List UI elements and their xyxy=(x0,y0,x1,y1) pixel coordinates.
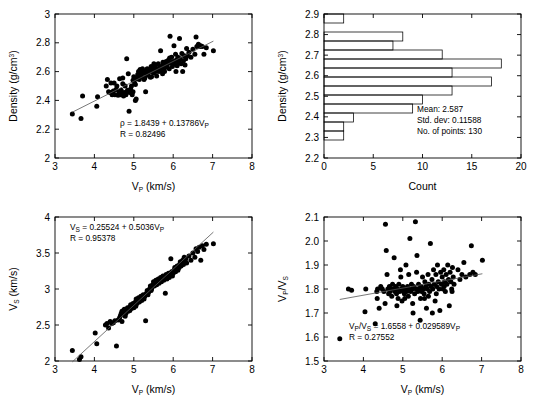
x-tick-label: 5 xyxy=(400,364,406,375)
data-point xyxy=(461,260,466,265)
regression-line xyxy=(340,274,483,300)
data-point xyxy=(407,236,412,241)
data-point xyxy=(433,272,438,277)
y-tick-label: 1.8 xyxy=(305,284,319,295)
data-point xyxy=(79,116,84,121)
y-tick-label: 2.7 xyxy=(305,50,319,61)
data-point xyxy=(383,301,388,306)
x-tick-label: 4 xyxy=(361,364,367,375)
x-tick-label: 7 xyxy=(210,161,216,172)
x-tick-label: 6 xyxy=(439,364,445,375)
data-point xyxy=(410,301,415,306)
data-point xyxy=(424,306,429,311)
data-point xyxy=(363,287,368,292)
y-tick-label: 2.5 xyxy=(305,91,319,102)
data-point xyxy=(127,109,132,114)
data-point xyxy=(337,336,342,341)
panel-vs-vs-vp: 34567822.533.54 VP (km/s) VS (km/s) VS =… xyxy=(0,203,269,406)
histogram-bar xyxy=(324,50,442,59)
histogram-bar xyxy=(324,86,452,95)
data-point xyxy=(426,272,431,277)
data-point xyxy=(204,45,209,50)
histogram-bar xyxy=(324,95,423,104)
data-point xyxy=(201,52,206,57)
y-tick-label: 2.1 xyxy=(305,212,319,223)
data-point xyxy=(180,69,185,74)
fit-equation-annotation: ρ = 1.8439 + 0.13786VP xyxy=(120,118,210,129)
data-point xyxy=(443,289,448,294)
x-tick-label: 10 xyxy=(417,161,429,172)
data-point xyxy=(420,275,425,280)
data-point xyxy=(422,291,427,296)
data-point xyxy=(428,241,433,246)
fit-line xyxy=(72,41,213,112)
data-point xyxy=(133,304,138,309)
data-point xyxy=(362,309,367,314)
x-tick-label: 4 xyxy=(92,161,98,172)
panel-density-histogram: 051015202.22.32.42.52.62.72.82.9 Count D… xyxy=(269,0,538,203)
x-tick-label: 4 xyxy=(92,364,98,375)
y-tick-label: 4 xyxy=(44,212,50,223)
data-point xyxy=(105,77,110,82)
data-point xyxy=(430,311,435,316)
data-point xyxy=(211,241,216,246)
histogram-bar xyxy=(324,113,354,122)
data-point xyxy=(442,284,447,289)
y-tick-label: 2.6 xyxy=(305,70,319,81)
data-point xyxy=(394,303,399,308)
data-point xyxy=(441,267,446,272)
x-tick-label: 7 xyxy=(210,364,216,375)
x-tick-label: 8 xyxy=(249,364,255,375)
panel-vpvs-vs-vp-svg: 3456781.51.61.71.81.92.02.1 VP (km/s) VP… xyxy=(269,203,538,406)
data-point xyxy=(383,222,388,227)
data-point xyxy=(70,112,75,117)
histogram-bar xyxy=(324,41,393,50)
x-axis-label: Count xyxy=(408,180,436,192)
data-point xyxy=(131,89,136,94)
data-point xyxy=(480,258,485,263)
y-tick-label: 2.0 xyxy=(305,236,319,247)
y-tick-label: 2 xyxy=(44,153,50,164)
histogram-bar xyxy=(324,77,491,86)
x-tick-label: 5 xyxy=(370,161,376,172)
data-point xyxy=(154,73,159,78)
data-point xyxy=(403,263,408,268)
y-axis-label: Density (g/cm3) xyxy=(276,50,288,121)
fit-equation-annotation: VS = 0.25524 + 0.5036VP xyxy=(70,222,165,233)
data-point xyxy=(145,289,150,294)
y-tick-label: 2.2 xyxy=(36,124,50,135)
data-point xyxy=(204,242,209,247)
data-point xyxy=(414,270,419,275)
regression-line xyxy=(72,232,213,362)
data-point xyxy=(143,89,148,94)
histogram-bar xyxy=(324,68,452,77)
x-tick-label: 20 xyxy=(515,161,527,172)
data-point xyxy=(114,84,119,89)
data-point xyxy=(455,267,460,272)
data-point xyxy=(153,282,158,287)
data-point xyxy=(120,76,125,81)
panel-density-histogram-svg: 051015202.22.32.42.52.62.72.82.9 Count D… xyxy=(269,0,538,203)
data-point xyxy=(167,55,172,60)
y-tick-label: 2.8 xyxy=(305,29,319,40)
correlation-annotation: R = 0.27552 xyxy=(349,332,395,342)
data-point xyxy=(168,256,173,261)
y-tick-label: 2.6 xyxy=(36,66,50,77)
data-point xyxy=(168,34,173,39)
data-point xyxy=(201,247,206,252)
data-point xyxy=(143,318,148,323)
data-point xyxy=(422,296,427,301)
data-point xyxy=(398,275,403,280)
data-point xyxy=(119,319,124,324)
x-tick-label: 6 xyxy=(170,364,176,375)
fit-equation-annotation: VP/VS = 1.6558 + 0.029589VP xyxy=(349,321,461,332)
data-point xyxy=(184,261,189,266)
y-tick-label: 2.3 xyxy=(305,132,319,143)
data-point xyxy=(192,52,197,57)
x-tick-label: 0 xyxy=(321,161,327,172)
data-point xyxy=(385,272,390,277)
panel-density-vs-vp-svg: 34567822.22.42.62.83 VP (km/s) Density (… xyxy=(0,0,269,203)
tick-labels: 051015202.22.32.42.52.62.72.82.9 xyxy=(305,9,527,173)
correlation-annotation: R = 0.95378 xyxy=(70,233,116,243)
data-point xyxy=(413,219,418,224)
